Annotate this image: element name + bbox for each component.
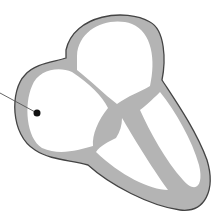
heart-diagram: [0, 0, 219, 216]
pointer-marker: [34, 110, 41, 117]
